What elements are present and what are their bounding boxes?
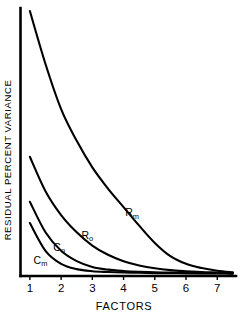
curves-group bbox=[30, 11, 233, 274]
x-tick-label-7: 7 bbox=[214, 282, 220, 294]
curve-label-sub-Cm: m bbox=[41, 259, 47, 268]
chart-svg: 1234567 RmRoCoCm FACTORS RESIDUAL PERCEN… bbox=[0, 0, 242, 317]
chart-figure: 1234567 RmRoCoCm FACTORS RESIDUAL PERCEN… bbox=[0, 0, 242, 317]
curve-label-sub-Rm: m bbox=[133, 212, 139, 221]
curve-Rm bbox=[30, 11, 233, 272]
curve-label-Co: Co bbox=[53, 241, 65, 255]
curve-label-Rm: Rm bbox=[125, 206, 139, 220]
x-tick-label-1: 1 bbox=[27, 282, 33, 294]
curve-label-sub-Ro: o bbox=[89, 234, 93, 243]
x-tick-label-6: 6 bbox=[183, 282, 189, 294]
y-axis-title: RESIDUAL PERCENT VARIANCE bbox=[2, 80, 13, 241]
curve-label-Cm: Cm bbox=[34, 254, 48, 268]
x-tick-label-3: 3 bbox=[89, 282, 95, 294]
x-axis-title: FACTORS bbox=[96, 300, 153, 312]
x-axis-tick-labels: 1234567 bbox=[27, 282, 221, 294]
x-tick-label-5: 5 bbox=[152, 282, 158, 294]
x-tick-label-4: 4 bbox=[120, 282, 127, 294]
x-tick-label-2: 2 bbox=[58, 282, 64, 294]
curve-label-sub-Co: o bbox=[61, 246, 65, 255]
